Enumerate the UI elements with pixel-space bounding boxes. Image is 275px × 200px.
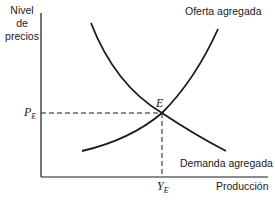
y-axis-label-line2: de [2, 17, 42, 30]
y-axis-label-line1: Nivel [2, 4, 42, 17]
pe-label: PE [24, 106, 36, 120]
ye-main: Y [157, 179, 164, 193]
ye-sub: E [164, 186, 169, 195]
pe-sub: E [31, 112, 36, 121]
supply-label: Oferta agregada [185, 5, 261, 17]
demand-label: Demanda agregada [180, 157, 273, 169]
y-axis-label-line3: precios [2, 30, 42, 43]
y-axis-label: Nivel de precios [2, 4, 42, 43]
ye-label: YE [157, 180, 169, 194]
equilibrium-label: E [156, 97, 163, 109]
demand-curve [91, 23, 226, 151]
x-axis-label: Producción [216, 180, 269, 192]
